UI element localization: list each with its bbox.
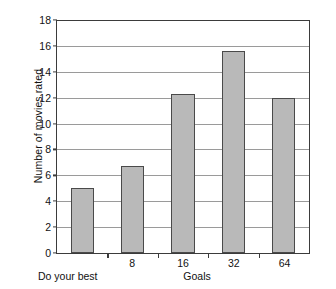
y-tick-label: 8 [45, 143, 51, 155]
bar-slot [259, 20, 309, 253]
plot-area: 024681012141618 [56, 20, 310, 254]
bar-chart: Number of movies rated 024681012141618 .… [0, 0, 336, 289]
y-tick-label: 4 [45, 195, 51, 207]
x-tick-label: 32 [208, 257, 259, 269]
y-tick-label: 12 [39, 92, 51, 104]
y-tick-label: 14 [39, 66, 51, 78]
y-tick-label: 10 [39, 118, 51, 130]
bars-group [57, 20, 309, 253]
y-tick-label: 0 [45, 247, 51, 259]
y-tick-label: 2 [45, 221, 51, 233]
y-tick-label: 16 [39, 40, 51, 52]
bar [71, 188, 94, 253]
y-tick-label: 6 [45, 169, 51, 181]
bar-slot [158, 20, 208, 253]
x-axis-title: Goals [29, 270, 336, 282]
x-tick-label: 64 [259, 257, 310, 269]
bar-slot [107, 20, 157, 253]
bar [272, 98, 295, 253]
x-tick-label: 16 [158, 257, 209, 269]
bar [171, 94, 194, 253]
bar-slot [208, 20, 258, 253]
bar-slot [57, 20, 107, 253]
x-axis-tick-labels: .8163264 [56, 257, 310, 269]
x-tick-label: 8 [107, 257, 158, 269]
bar [121, 166, 144, 253]
bar [222, 51, 245, 253]
y-tick-label: 18 [39, 14, 51, 26]
